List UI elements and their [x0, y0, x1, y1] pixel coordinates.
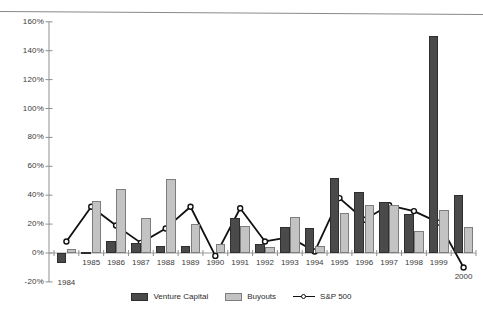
y-axis-tick-label: 80%	[6, 132, 44, 142]
x-axis-tick-label: 1997	[376, 258, 402, 267]
x-axis-tick-label: 1984	[53, 278, 79, 287]
legend-swatch-venture-capital	[131, 293, 148, 301]
bar-venture-capital	[379, 202, 389, 253]
sp500-data-point-marker	[188, 204, 193, 209]
bar-buyouts	[67, 249, 77, 253]
bar-venture-capital	[57, 253, 67, 263]
legend-swatch-buyouts	[225, 293, 242, 301]
x-axis-tick-label: 1995	[326, 258, 352, 267]
legend-item-sp500: S&P 500	[293, 292, 351, 301]
bar-buyouts	[315, 246, 325, 253]
bar-buyouts	[265, 247, 275, 253]
legend-circle-marker-icon	[301, 294, 306, 299]
sp500-data-point-marker	[64, 239, 69, 244]
bar-buyouts	[92, 201, 102, 253]
y-axis-tick-text: 0%	[32, 248, 44, 257]
x-axis-tick-label: 1985	[78, 258, 104, 267]
y-axis-tick-text: 80%	[27, 132, 44, 141]
bar-venture-capital	[156, 246, 166, 253]
bar-buyouts	[240, 226, 250, 253]
x-axis-tick-label: 1996	[351, 258, 377, 267]
y-axis-tick-text: 40%	[27, 190, 44, 199]
bar-venture-capital	[305, 228, 315, 253]
y-axis-tick-label: 120%	[6, 75, 44, 85]
sp500-data-point-marker	[238, 206, 243, 211]
bar-venture-capital	[429, 36, 439, 253]
bar-buyouts	[166, 179, 176, 253]
bar-venture-capital	[230, 218, 240, 253]
y-axis-tick-text: 60%	[27, 161, 44, 170]
bar-buyouts	[191, 224, 201, 253]
x-axis-tick-label: 1987	[128, 258, 154, 267]
bar-buyouts	[439, 210, 449, 253]
x-axis-tick-label: 1991	[227, 258, 253, 267]
chart-legend: Venture Capital Buyouts S&P 500	[0, 292, 483, 301]
y-axis-tick-label: 0%	[6, 248, 44, 258]
sp500-data-point-marker	[461, 265, 466, 270]
bar-buyouts	[116, 189, 126, 253]
y-axis-tick-label: 160%	[6, 17, 44, 27]
y-axis-tick-text: 140%	[23, 46, 44, 55]
y-axis-tick-label: 140%	[6, 46, 44, 56]
bar-buyouts	[414, 231, 424, 253]
y-axis-tick-text: 100%	[23, 104, 44, 113]
bar-buyouts	[216, 244, 226, 253]
legend-label-buyouts: Buyouts	[247, 292, 276, 301]
x-axis-tick-label: 1988	[153, 258, 179, 267]
bar-buyouts	[290, 217, 300, 253]
legend-item-buyouts: Buyouts	[225, 292, 276, 301]
bar-venture-capital	[280, 227, 290, 253]
sp500-data-point-marker	[263, 239, 268, 244]
x-axis-tick-label: 1993	[277, 258, 303, 267]
y-axis-tick-text: -20%	[25, 277, 44, 286]
bar-buyouts	[340, 213, 350, 253]
y-axis-tick-text: 160%	[23, 17, 44, 26]
legend-item-venture-capital: Venture Capital	[131, 292, 208, 301]
x-axis-tick-label: 1992	[252, 258, 278, 267]
x-axis-tick-label: 1994	[302, 258, 328, 267]
bar-venture-capital	[131, 243, 141, 253]
legend-label-venture-capital: Venture Capital	[153, 292, 208, 301]
y-axis-tick-text: 120%	[23, 75, 44, 84]
bar-venture-capital	[454, 195, 464, 253]
y-axis-tick-label: -20%	[6, 277, 44, 287]
bar-venture-capital	[181, 246, 191, 253]
bar-buyouts	[389, 205, 399, 253]
bar-buyouts	[464, 227, 474, 253]
x-axis-tick-label: 1998	[401, 258, 427, 267]
x-axis-tick-label: 1999	[426, 258, 452, 267]
bar-venture-capital	[354, 192, 364, 253]
bar-buyouts	[141, 218, 151, 253]
chart-figure: 160%140%120%100%80%60%40%20%0%-20% 19841…	[0, 0, 483, 312]
legend-label-sp500: S&P 500	[320, 292, 351, 301]
x-axis-tick-label: 1989	[178, 258, 204, 267]
x-axis-tick-label: 1990	[202, 258, 228, 267]
x-axis-tick-label: 2000	[451, 272, 477, 281]
sp500-data-point-marker	[411, 209, 416, 214]
y-axis-tick-label: 20%	[6, 219, 44, 229]
bar-venture-capital	[330, 178, 340, 253]
bar-venture-capital	[404, 214, 414, 253]
legend-swatch-sp500	[293, 293, 315, 301]
y-axis-tick-text: 20%	[27, 219, 44, 228]
y-axis-tick-label: 100%	[6, 104, 44, 114]
bar-venture-capital	[81, 252, 91, 254]
bar-buyouts	[365, 205, 375, 253]
bar-venture-capital	[255, 244, 265, 253]
y-axis-tick-label: 40%	[6, 190, 44, 200]
y-axis-tick-label: 60%	[6, 161, 44, 171]
x-axis-tick-label: 1986	[103, 258, 129, 267]
bar-venture-capital	[106, 241, 116, 253]
